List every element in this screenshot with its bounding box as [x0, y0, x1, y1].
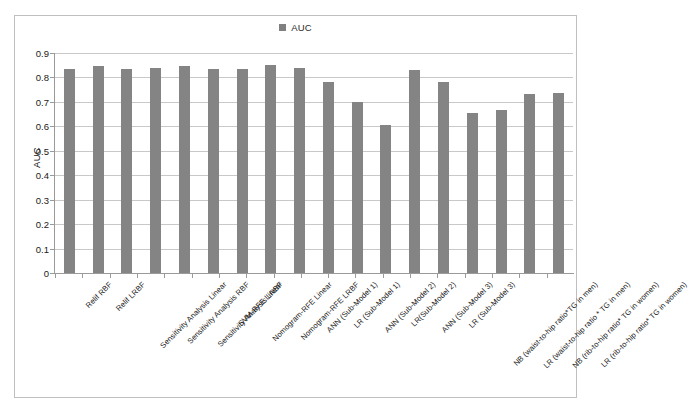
- x-axis-tick: [219, 274, 220, 278]
- x-axis-tick-labels: Relif RBFRelif LRBFSensitivity Analysis …: [55, 280, 574, 410]
- x-axis-tick: [410, 274, 411, 278]
- y-axis-tick-label: 0.8: [36, 72, 49, 83]
- x-tick-slot: [246, 274, 273, 278]
- x-axis-tick: [301, 274, 302, 278]
- bar-slot: [516, 53, 545, 273]
- bar: [553, 93, 564, 273]
- y-axis-tick: [50, 151, 54, 152]
- bar: [294, 68, 305, 273]
- y-axis-tick: [50, 175, 54, 176]
- x-axis-tick: [465, 274, 466, 278]
- plot-area: 0.90.80.70.60.50.40.30.20.10: [54, 53, 573, 273]
- bar-slot: [458, 53, 487, 273]
- bar-slot: [544, 53, 573, 273]
- x-axis-tick: [82, 274, 83, 278]
- x-tick-slot: [274, 274, 301, 278]
- x-axis-tick: [274, 274, 275, 278]
- bar-slot: [141, 53, 170, 273]
- bar: [150, 68, 161, 273]
- x-tick-slot: [519, 274, 546, 278]
- x-axis-tick: [328, 274, 329, 278]
- bar: [323, 82, 334, 273]
- y-axis-tick-label: 0.1: [36, 243, 49, 254]
- x-axis-tick: [55, 274, 56, 278]
- x-tick-slot: [219, 274, 246, 278]
- x-axis-tick: [519, 274, 520, 278]
- y-axis-tick: [50, 102, 54, 103]
- bar: [409, 70, 420, 273]
- x-axis-tick: [492, 274, 493, 278]
- x-axis-tick: [110, 274, 111, 278]
- legend-label-auc: AUC: [291, 22, 312, 33]
- y-axis-tick-label: 0.9: [36, 48, 49, 59]
- bar: [524, 94, 535, 273]
- bar-slot: [400, 53, 429, 273]
- y-axis-tick: [50, 200, 54, 201]
- x-tick-slot: [301, 274, 328, 278]
- x-tick-slot: [355, 274, 382, 278]
- bar: [380, 125, 391, 273]
- x-tick-slot: [492, 274, 519, 278]
- x-tick-slot: [328, 274, 355, 278]
- y-axis-tick: [50, 126, 54, 127]
- x-tick-slot: [137, 274, 164, 278]
- x-axis-tick: [355, 274, 356, 278]
- bar-slot: [343, 53, 372, 273]
- x-tick-slot: [437, 274, 464, 278]
- bar: [237, 69, 248, 273]
- bar-series-auc: [55, 53, 573, 273]
- bar: [438, 82, 449, 273]
- legend-swatch-auc: [279, 24, 286, 31]
- bar: [179, 66, 190, 273]
- x-axis-tick-label: Relif RBF: [84, 280, 114, 310]
- x-tick-slot: [82, 274, 109, 278]
- bar: [121, 69, 132, 273]
- bar-slot: [314, 53, 343, 273]
- chart-legend: AUC: [15, 22, 576, 33]
- y-axis-tick: [50, 249, 54, 250]
- x-tick-slot: [383, 274, 410, 278]
- y-axis-tick: [50, 53, 54, 54]
- chart-frame: AUC AUC 0.90.80.70.60.50.40.30.20.10 Rel…: [14, 15, 577, 398]
- x-tick-slot: [465, 274, 492, 278]
- y-axis-tick-label: 0.3: [36, 194, 49, 205]
- y-axis-tick: [50, 77, 54, 78]
- bar-slot: [372, 53, 401, 273]
- x-tick-slot: [410, 274, 437, 278]
- x-axis-tick: [137, 274, 138, 278]
- x-axis-tick: [547, 274, 548, 278]
- x-axis-tick: [192, 274, 193, 278]
- bar-slot: [429, 53, 458, 273]
- x-axis-tick: [437, 274, 438, 278]
- y-axis-tick-label: 0.4: [36, 170, 49, 181]
- bar: [93, 66, 104, 273]
- x-axis-tick: [383, 274, 384, 278]
- bar: [208, 69, 219, 273]
- x-tick-slot: [547, 274, 574, 278]
- bar-slot: [228, 53, 257, 273]
- bar-slot: [285, 53, 314, 273]
- y-axis-tick-label: 0.5: [36, 145, 49, 156]
- bar-slot: [199, 53, 228, 273]
- x-tick-slot: [192, 274, 219, 278]
- bar: [352, 102, 363, 273]
- bar: [467, 113, 478, 273]
- bar-slot: [170, 53, 199, 273]
- x-axis-ticks: [55, 274, 574, 278]
- x-tick-slot: [164, 274, 191, 278]
- x-axis-tick: [246, 274, 247, 278]
- bar: [64, 69, 75, 273]
- y-axis-tick-label: 0.6: [36, 121, 49, 132]
- bar: [265, 65, 276, 273]
- x-tick-slot: [110, 274, 137, 278]
- y-axis-tick: [50, 224, 54, 225]
- bar-slot: [487, 53, 516, 273]
- y-axis-tick-label: 0.2: [36, 219, 49, 230]
- bar-slot: [113, 53, 142, 273]
- x-tick-slot: [55, 274, 82, 278]
- bar-slot: [256, 53, 285, 273]
- bar-slot: [55, 53, 84, 273]
- x-axis-tick: [164, 274, 165, 278]
- y-axis-tick-label: 0: [44, 268, 49, 279]
- bar: [496, 110, 507, 273]
